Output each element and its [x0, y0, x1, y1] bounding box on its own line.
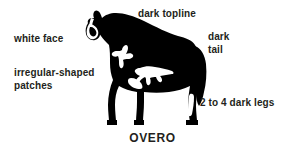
- annotation-dark-legs: 2 to 4 dark legs: [200, 96, 274, 109]
- figure-caption: OVERO: [0, 131, 305, 145]
- annotation-dark-topline: dark topline: [138, 7, 196, 20]
- overo-horse-diagram: dark topline white face dark tail irregu…: [0, 0, 305, 158]
- annotation-dark-tail: dark tail: [208, 30, 230, 56]
- annotation-irregular-shaped-patches: irregular-shaped patches: [14, 66, 110, 92]
- annotation-white-face: white face: [14, 32, 63, 45]
